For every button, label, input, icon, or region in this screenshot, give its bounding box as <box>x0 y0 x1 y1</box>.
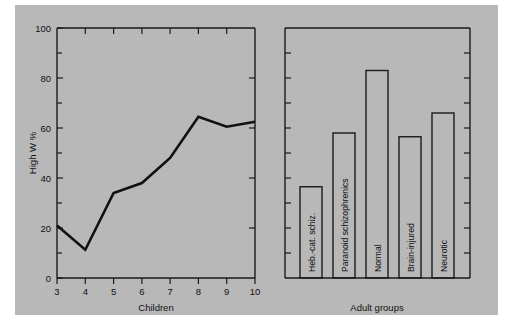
left-chart-xtick-7: 7 <box>167 286 172 297</box>
left-chart-data-line <box>57 117 255 250</box>
left-chart-xtick-6: 6 <box>139 286 144 297</box>
left-chart-xtick-3: 3 <box>54 286 59 297</box>
left-chart-ytick-100: 100 <box>35 23 51 34</box>
right-chart-y-left-ticks <box>285 53 291 253</box>
right-chart-y-right-ticks <box>464 53 470 253</box>
left-chart-top-ticks <box>85 28 226 34</box>
bar-label-heb-cat-schiz: Heb.-cat. schiz. <box>307 213 317 272</box>
bar-label-normal: Normal <box>373 244 383 272</box>
right-bar-chart: Heb.-cat. schiz. Paranoid schizophrenics… <box>285 28 470 313</box>
right-chart-x-axis-label: Adult groups <box>350 302 404 313</box>
left-chart-y-minor-ticks <box>57 53 62 253</box>
left-chart-ytick-80: 80 <box>40 73 51 84</box>
left-line-chart: 0 20 40 60 80 100 3 4 5 6 7 8 9 10 Child… <box>27 23 260 314</box>
bar-label-paranoid-schizophrenics: Paranoid schizophrenics <box>340 178 350 272</box>
bar-label-brain-injured: Brain-injured <box>406 223 416 272</box>
left-chart-xtick-4: 4 <box>83 286 88 297</box>
left-chart-x-axis-label: Children <box>138 302 173 313</box>
left-chart-xtick-10: 10 <box>250 286 261 297</box>
left-chart-x-ticks <box>57 278 255 284</box>
left-chart-xtick-9: 9 <box>224 286 229 297</box>
bar-label-neurotic: Neurotic <box>439 239 449 272</box>
left-chart-ytick-60: 60 <box>40 123 51 134</box>
left-chart-y-axis-label: High W % <box>27 131 38 174</box>
left-chart-xtick-5: 5 <box>111 286 116 297</box>
left-chart-ytick-40: 40 <box>40 173 51 184</box>
left-chart-ytick-20: 20 <box>40 223 51 234</box>
left-chart-xtick-8: 8 <box>196 286 201 297</box>
left-chart-right-spine-ticks <box>249 78 255 228</box>
left-chart-ytick-0: 0 <box>46 273 51 284</box>
charts-svg: 0 20 40 60 80 100 3 4 5 6 7 8 9 10 Child… <box>0 0 510 332</box>
figure-canvas: 0 20 40 60 80 100 3 4 5 6 7 8 9 10 Child… <box>0 0 510 332</box>
